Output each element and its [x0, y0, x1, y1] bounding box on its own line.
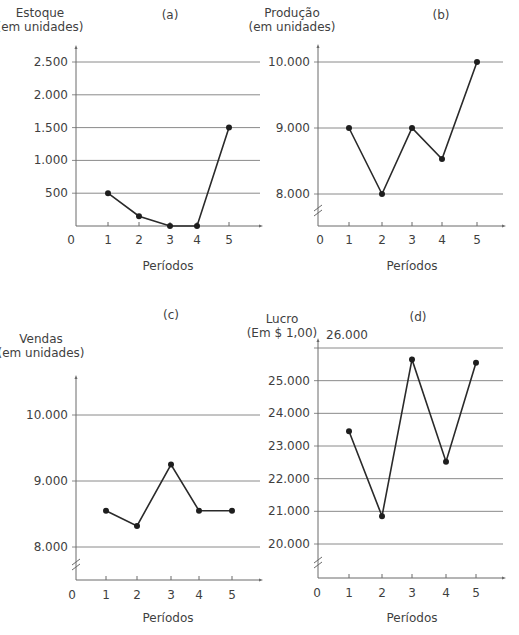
y-axis-arrow-icon: [317, 338, 320, 342]
data-point: [105, 190, 111, 196]
data-point: [226, 125, 232, 131]
y-axis-arrow-icon: [75, 375, 78, 379]
data-line: [349, 359, 476, 516]
data-point: [439, 156, 445, 162]
data-point: [443, 459, 449, 465]
y-axis-arrow-icon: [75, 45, 78, 49]
data-point: [346, 428, 352, 434]
x-axis-arrow-icon: [259, 225, 263, 228]
data-point: [167, 223, 173, 229]
charts-canvas: [0, 0, 519, 635]
data-point: [134, 523, 140, 529]
data-point: [229, 508, 235, 514]
data-point: [409, 125, 415, 131]
x-axis-arrow-icon: [502, 577, 506, 580]
data-point: [473, 360, 479, 366]
y-axis-arrow-icon: [317, 44, 320, 48]
data-point: [379, 513, 385, 519]
data-line: [108, 128, 229, 226]
data-point: [168, 462, 174, 468]
data-point: [379, 191, 385, 197]
data-point: [474, 59, 480, 65]
data-point: [196, 508, 202, 514]
data-line: [106, 465, 232, 526]
x-axis-arrow-icon: [259, 579, 263, 582]
x-axis-arrow-icon: [502, 225, 506, 228]
data-point: [194, 223, 200, 229]
data-point: [136, 213, 142, 219]
data-point: [346, 125, 352, 131]
data-point: [103, 508, 109, 514]
data-point: [409, 356, 415, 362]
